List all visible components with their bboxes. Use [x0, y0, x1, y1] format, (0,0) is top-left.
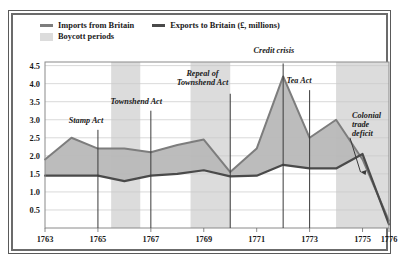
annotation-label: Townshend Act [111, 97, 163, 106]
y-tick-label: 4.0 [30, 80, 40, 89]
annotation-label: Colonial [352, 111, 382, 120]
x-tick-label: 1763 [37, 235, 54, 244]
chart-plot-area: 0.51.01.52.02.53.03.54.04.51763176517671… [0, 0, 403, 267]
annotation-label: deficit [352, 129, 374, 138]
y-tick-label: 0.5 [30, 206, 40, 215]
y-tick-label: 2.5 [30, 134, 40, 143]
annotation-label: Tea Act [286, 76, 312, 85]
y-tick-label: 1.5 [30, 170, 40, 179]
x-tick-label: 1773 [301, 235, 318, 244]
annotation-label: Townshend Act [177, 78, 229, 87]
x-tick-label: 1765 [90, 235, 107, 244]
annotation-label: Credit crisis [254, 46, 295, 55]
annotation-label: Stamp Act [69, 116, 104, 125]
y-tick-label: 3.5 [30, 98, 40, 107]
x-tick-label: 1769 [195, 235, 212, 244]
boycott-band-0 [111, 62, 140, 228]
x-tick-label: 1767 [142, 235, 159, 244]
trade-line-chart: 0.51.01.52.02.53.03.54.04.51763176517671… [0, 0, 403, 267]
annotation-label: Repeal of [185, 69, 219, 78]
y-tick-label: 2.0 [30, 152, 40, 161]
x-tick-label: 1775 [354, 235, 371, 244]
y-tick-label: 3.0 [30, 116, 40, 125]
figure-root: Imports from Britain Exports to Britain … [0, 0, 403, 267]
x-tick-label: 1771 [248, 235, 265, 244]
y-tick-label: 4.5 [30, 62, 40, 71]
x-tick-label: 1776 [381, 235, 398, 244]
y-tick-label: 1.0 [30, 188, 40, 197]
annotation-label: trade [352, 120, 370, 129]
